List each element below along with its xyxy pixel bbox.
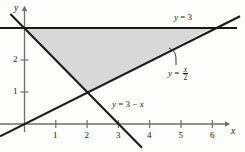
label-y-equals-3-minus-x: y = 3 − x <box>112 100 144 109</box>
label-y-equals-x-over-2: y = x 2 <box>168 66 188 82</box>
x-axis-label: x <box>231 127 235 137</box>
x-tick-label-1: 1 <box>53 131 58 140</box>
x-tick-label-3: 3 <box>116 131 121 140</box>
x-tick-label-5: 5 <box>179 131 184 140</box>
graph-figure: y x 1 2 3 4 5 6 1 2 y = 3 y = x 2 y = 3 … <box>0 0 245 152</box>
x-tick-label-4: 4 <box>147 131 152 140</box>
y-tick-label-2: 2 <box>13 55 18 64</box>
label-y-equals-3: y = 3 <box>174 13 192 22</box>
x-tick-label-2: 2 <box>85 131 90 140</box>
x-tick-label-6: 6 <box>210 131 215 140</box>
y-axis-label: y <box>14 4 18 14</box>
fraction-x-over-2: x 2 <box>183 66 189 82</box>
coordinate-plot <box>0 0 245 152</box>
y-tick-label-1: 1 <box>13 87 18 96</box>
line-y-equals-3-minus-x <box>10 138 142 148</box>
shaded-region <box>25 28 213 92</box>
